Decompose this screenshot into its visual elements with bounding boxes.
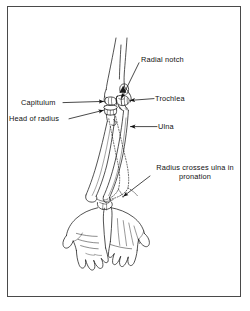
label-ulna: Ulna xyxy=(158,122,174,131)
hand-right-dorsal xyxy=(108,208,149,267)
label-radius-crosses-ulna: Radius crosses ulna in pronation xyxy=(152,163,238,181)
label-capitulum: Capitulum xyxy=(21,98,56,107)
radius-shaft xyxy=(86,122,115,203)
label-trochlea: Trochlea xyxy=(155,94,185,103)
anatomy-drawing xyxy=(0,0,250,311)
label-radius-crosses-ulna-line1: Radius crosses ulna xyxy=(156,163,225,172)
distal-humerus-articular xyxy=(105,95,129,105)
wrist-junction xyxy=(97,199,114,210)
radius-head-and-neck xyxy=(104,105,118,126)
label-radial-notch: Radial notch xyxy=(141,55,184,64)
label-head-of-radius: Head of radius xyxy=(9,114,59,123)
anatomy-figure: Radial notch Trochlea Capitulum Head of … xyxy=(0,0,250,311)
hand-left-palmar xyxy=(63,208,108,270)
